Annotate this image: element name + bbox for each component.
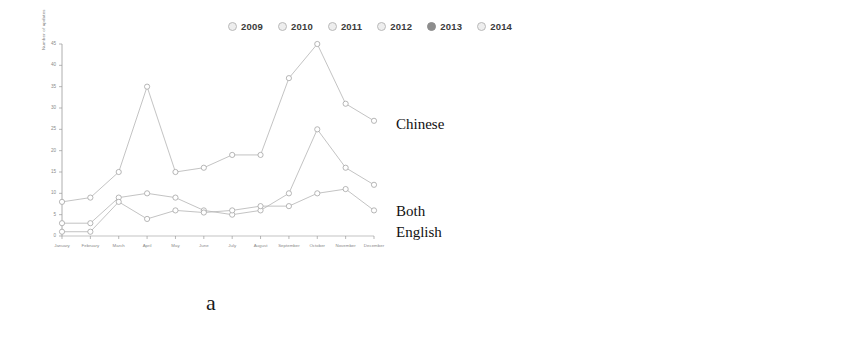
panel-a-y-tick-label: 40 [42,62,56,67]
circle-marker-icon [278,22,287,31]
panel-a-data-point [286,191,291,196]
panel-a-series-line-english [62,189,374,232]
panel-a-data-point [315,191,320,196]
panel-a-data-point [343,101,348,106]
legend-year-label: 2011 [341,21,362,32]
panel-a-data-point [59,221,64,226]
panel-a-data-point [230,152,235,157]
panel-a-y-tick-label: 20 [42,148,56,153]
legend-year-2013: 2013 [427,21,462,32]
circle-marker-icon [477,22,486,31]
legend-year-2011: 2011 [328,21,362,32]
panel-a-data-point [59,229,64,234]
panel-a-series-line-chinese [62,44,374,202]
panel-a-y-tick-label: 15 [42,169,56,174]
panel-a-data-point [201,165,206,170]
panel-a-series-line-both [62,129,374,223]
panel-a-data-point [116,169,121,174]
legend-year-label: 2010 [291,21,313,32]
panel-a-y-tick-label: 5 [42,212,56,217]
panel-a-data-point [173,195,178,200]
panel-a-data-point [116,199,121,204]
panel-a-y-tick-label: 30 [42,105,56,110]
panel-a-letter: a [206,290,216,316]
panel-a-data-point [88,221,93,226]
panel-a-data-point [144,84,149,89]
panel-a-data-point [371,118,376,123]
figure-root: 200920102011201220132014 Number of updat… [0,0,849,349]
panel-a-data-point [343,165,348,170]
legend-year-label: 2009 [241,21,263,32]
panel-a-data-point [343,186,348,191]
series-label-chinese: Chinese [396,116,444,133]
legend-year-2010: 2010 [278,21,313,32]
panel-a-plot-area [48,40,378,250]
panel-a-data-point [258,204,263,209]
panel-a-data-point [230,208,235,213]
panel-a-data-point [88,229,93,234]
panel-a-y-tick-label: 25 [42,126,56,131]
circle-marker-icon [328,22,337,31]
panel-a-data-point [144,216,149,221]
legend-year-2009: 2009 [228,21,263,32]
legend-year-label: 2012 [390,21,412,32]
panel-a-data-point [173,169,178,174]
panel-a-data-point [201,210,206,215]
legend-year-label: 2013 [440,21,462,32]
panel-a-data-point [258,152,263,157]
circle-marker-icon [427,22,436,31]
panel-a-data-point [144,191,149,196]
panel-a-data-point [315,127,320,132]
panel-a-data-point [88,195,93,200]
panel-a-data-point [286,76,291,81]
panel-b-bar-chart: December 2013 Total Posts StatusSharesCo… [500,0,849,349]
circle-marker-icon [377,22,386,31]
series-label-both: Both [396,203,425,220]
panel-a-data-point [59,199,64,204]
panel-a-data-point [286,204,291,209]
panel-a-data-point [315,41,320,46]
legend-year-2012: 2012 [377,21,412,32]
panel-a-data-point [371,208,376,213]
series-label-english: English [396,224,442,241]
panel-a-y-tick-label: 0 [42,233,56,238]
circle-marker-icon [228,22,237,31]
panel-a-line-chart: 200920102011201220132014 Number of updat… [0,0,500,349]
panel-a-y-tick-label: 35 [42,84,56,89]
panel-a-y-tick-label: 45 [42,41,56,46]
panel-a-data-point [173,208,178,213]
panel-a-x-tick-label: December [354,243,394,248]
panel-a-y-tick-label: 10 [42,190,56,195]
panel-a-data-point [371,182,376,187]
